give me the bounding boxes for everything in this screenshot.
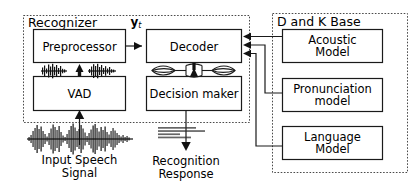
speech-recognition-diagram: Recognizer D and K Base Preprocessor VAD… [0, 0, 413, 193]
block-language-model-label-line2: Model [315, 142, 350, 156]
arrow-pronunciation-model-to-decoder [243, 41, 283, 93]
block-pronunciation-model-label-line2: model [315, 94, 351, 108]
signal-label-subscript: t [138, 21, 142, 30]
block-decoder-label: Decoder [170, 40, 219, 54]
group-dk-base-label: D and K Base [277, 14, 361, 29]
block-acoustic-model-label-line2: Model [315, 45, 350, 59]
transcript-text-icon [158, 127, 205, 138]
arrow-acoustic-model-to-decoder [243, 33, 283, 40]
word-lattice-icon [152, 63, 235, 77]
signal-label-yt: yt [131, 15, 143, 30]
caption-recognition-response-line2: Response [158, 167, 213, 181]
block-preprocessor-label: Preprocessor [42, 40, 117, 54]
arrow-vad-to-preprocessor [76, 64, 84, 76]
caption-recognition-response-line1: Recognition [152, 154, 220, 168]
caption-input-speech-signal-line2: Signal [62, 166, 97, 180]
arrow-language-model-to-decoder [243, 50, 283, 146]
arrow-preprocessor-to-decoder [126, 42, 143, 50]
block-decision-maker-label: Decision maker [150, 87, 239, 101]
signal-label-symbol: y [131, 15, 139, 29]
group-recognizer-label: Recognizer [28, 15, 98, 30]
block-vad-label: VAD [68, 87, 92, 101]
caption-input-speech-signal-line1: Input Speech [42, 153, 118, 167]
